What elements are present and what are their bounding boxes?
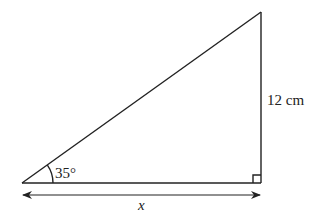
angle-arc <box>47 165 53 183</box>
angle-label: 35° <box>55 165 76 181</box>
right-angle-marker <box>253 175 261 183</box>
triangle-diagram: 35° 12 cm x <box>0 0 313 218</box>
triangle <box>22 12 261 183</box>
side-label: 12 cm <box>267 92 304 108</box>
base-label: x <box>137 197 145 213</box>
hypotenuse <box>22 12 261 183</box>
